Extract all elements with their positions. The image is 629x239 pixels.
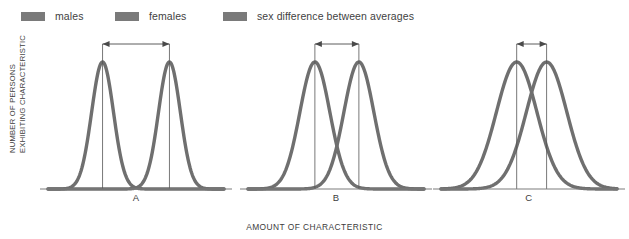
panel-a-plot	[40, 32, 232, 214]
panel-c-curves	[441, 62, 617, 189]
panel-c-difference-arrow	[517, 41, 547, 47]
panel-label-a: A	[40, 192, 232, 203]
curve-females	[248, 62, 424, 189]
curve-females	[48, 62, 224, 189]
legend-item-label: males	[55, 10, 84, 22]
panel-c: C	[433, 32, 625, 214]
arrowhead-left-icon	[315, 41, 322, 47]
panel-group: A B	[34, 32, 629, 214]
panel-b-mean-lines	[315, 44, 359, 189]
arrowhead-left-icon	[517, 41, 524, 47]
legend-item-sex-difference: sex difference between averages	[223, 8, 414, 24]
panel-b-difference-arrow	[315, 41, 359, 47]
arrowhead-right-icon	[162, 41, 169, 47]
arrowhead-right-icon	[352, 41, 359, 47]
legend-item-label: females	[149, 10, 186, 22]
legend-item-label: sex difference between averages	[257, 10, 414, 22]
legend-swatch-icon	[115, 12, 139, 21]
panel-a: A	[40, 32, 232, 214]
y-axis-label-line1: NUMBER OF PERSONS	[8, 64, 18, 153]
curve-males	[441, 62, 617, 189]
legend-swatch-icon	[21, 12, 45, 21]
panel-b: B	[240, 32, 432, 214]
legend-item-females: females	[115, 8, 186, 24]
curve-males	[48, 62, 224, 189]
legend-swatch-icon	[223, 12, 247, 21]
panel-a-difference-arrow	[103, 41, 170, 47]
y-axis-label-line2: EXHIBITING CHARACTERISTIC	[18, 35, 28, 153]
panel-b-curves	[248, 62, 424, 189]
panel-label-c: C	[433, 192, 625, 203]
curve-males	[248, 62, 424, 189]
y-axis-label: NUMBER OF PERSONS EXHIBITING CHARACTERIS…	[5, 23, 31, 153]
panel-label-b: B	[240, 192, 432, 203]
panel-b-plot	[240, 32, 432, 214]
arrowhead-left-icon	[103, 41, 110, 47]
panel-c-plot	[433, 32, 625, 214]
legend: males females sex difference between ave…	[0, 8, 629, 28]
figure-root: males females sex difference between ave…	[0, 0, 629, 239]
arrowhead-right-icon	[540, 41, 547, 47]
panel-a-curves	[48, 62, 224, 189]
legend-item-males: males	[21, 8, 84, 24]
x-axis-label: AMOUNT OF CHARACTERISTIC	[0, 222, 629, 232]
